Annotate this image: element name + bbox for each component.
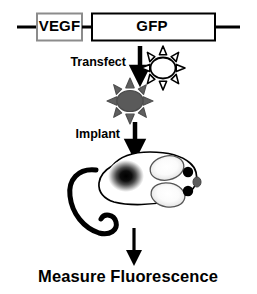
transfect-step: Transfect — [70, 46, 140, 76]
workflow-diagram-canvas: VEGF GFP Transfect — [0, 0, 257, 294]
implant-step: Implant — [76, 122, 135, 150]
transfected-cell — [107, 78, 153, 124]
gene-construct: VEGF GFP — [17, 14, 240, 41]
workflow-figure: VEGF GFP Transfect — [0, 0, 257, 294]
mouse-eye-upper — [183, 167, 193, 177]
mouse-illustration — [70, 152, 201, 234]
untransfected-cell — [141, 46, 185, 90]
transfected-cell-body — [117, 91, 143, 112]
mouse-nose — [193, 177, 201, 187]
gfp-gene-label: GFP — [136, 17, 167, 34]
vegf-promoter-label: VEGF — [39, 17, 81, 34]
implant-label: Implant — [76, 127, 121, 141]
mouse-eye-lower — [183, 186, 193, 196]
tumor-fluorescence-spot — [108, 160, 144, 192]
untransfected-cell-body — [151, 58, 176, 79]
transfect-label: Transfect — [70, 55, 126, 69]
measure-fluorescence-caption: Measure Fluorescence — [38, 267, 218, 285]
